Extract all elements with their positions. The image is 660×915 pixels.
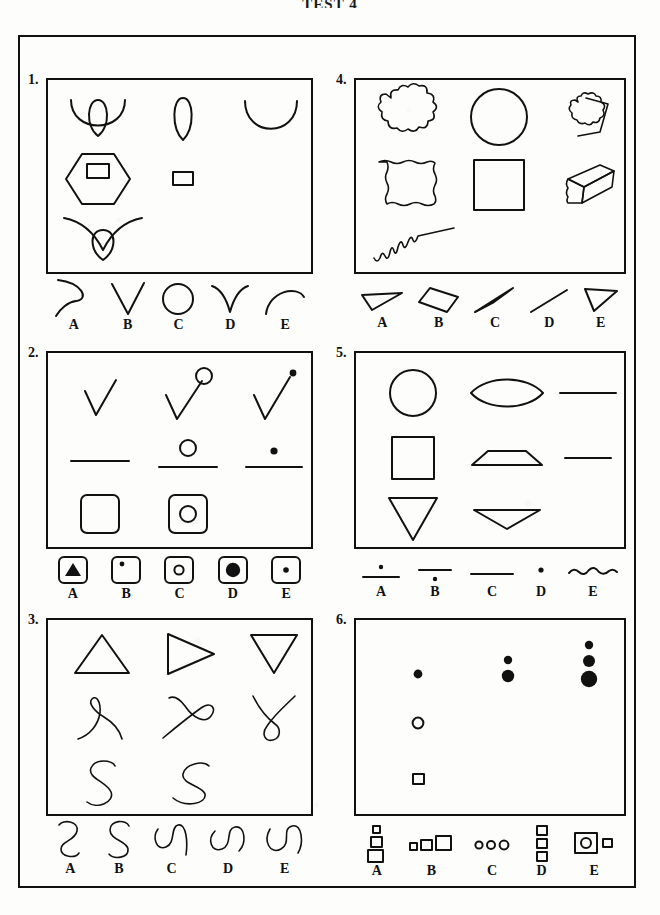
answer-option-c[interactable]: C	[162, 554, 196, 601]
answer-option-a[interactable]: A	[360, 562, 402, 599]
stimulus-cell	[233, 88, 308, 148]
stimulus-cell	[58, 148, 138, 210]
stimulus-cell	[552, 361, 624, 425]
stimulus-cell	[370, 491, 456, 547]
answer-letter: B	[430, 585, 439, 599]
answer-option-d[interactable]: D	[216, 554, 250, 601]
stimulus-cell	[364, 220, 464, 270]
panel-1-stimulus-box	[46, 78, 313, 274]
answer-option-d[interactable]: D	[529, 823, 555, 878]
answer-option-a[interactable]: A	[53, 817, 87, 876]
answer-option-e[interactable]: E	[566, 562, 620, 599]
answer-option-e[interactable]: E	[263, 281, 307, 332]
answer-art-square-with-large-filled-circle	[216, 554, 250, 586]
panel-4-answer-row[interactable]: A B C D E	[354, 280, 626, 330]
answer-option-b[interactable]: B	[102, 817, 136, 876]
stimulus-cell	[548, 154, 624, 216]
answer-art-slanted-rectangle	[416, 285, 462, 315]
answer-letter: B	[114, 862, 123, 876]
panel-1: 1.	[28, 72, 313, 337]
panel-6-answer-row[interactable]: A B C	[354, 824, 626, 878]
answer-letter: B	[427, 864, 436, 878]
panel-5-answer-row[interactable]: A B C D E	[354, 555, 626, 599]
answer-art-thin-flat-triangle	[359, 289, 405, 315]
stimulus-cell	[364, 154, 450, 216]
answer-option-c[interactable]: C	[468, 562, 516, 599]
stimulus-cell-empty	[554, 754, 624, 804]
answer-letter: C	[166, 862, 176, 876]
answer-art-line-with-dot-above	[360, 562, 402, 584]
answer-option-b[interactable]: B	[407, 823, 455, 878]
stimulus-cell-empty	[552, 491, 624, 547]
answer-option-a[interactable]: A	[56, 554, 90, 601]
answer-option-d[interactable]: D	[528, 562, 554, 599]
answer-art-thin-sliver-triangle	[472, 285, 518, 315]
answer-option-e[interactable]: E	[264, 817, 306, 876]
answer-option-e[interactable]: E	[570, 823, 618, 878]
stimulus-cell	[60, 686, 144, 750]
answer-letter: A	[65, 862, 75, 876]
stimulus-cell	[464, 491, 550, 547]
answer-art-v-shape	[108, 281, 148, 317]
answer-option-d[interactable]: D	[209, 281, 251, 332]
answer-option-a[interactable]: A	[362, 823, 392, 878]
stimulus-cell-empty	[466, 754, 550, 804]
answer-letter: C	[490, 316, 500, 330]
panel-4: 4.	[336, 72, 626, 337]
stimulus-cell-empty	[238, 485, 310, 543]
answer-letter: C	[487, 864, 497, 878]
stimulus-cell	[58, 208, 148, 268]
stimulus-cell	[364, 84, 450, 150]
stimulus-cell	[148, 88, 218, 148]
panel-5-number: 5.	[336, 345, 347, 361]
answer-option-e[interactable]: E	[269, 554, 303, 601]
answer-letter: D	[537, 864, 547, 878]
answer-letter: D	[225, 318, 235, 332]
panel-5-stimulus-box	[354, 351, 626, 549]
answer-option-c[interactable]: C	[472, 285, 518, 330]
stimulus-cell	[238, 626, 310, 682]
answer-option-a[interactable]: A	[359, 289, 405, 330]
stimulus-cell	[464, 427, 550, 489]
stimulus-cell	[376, 630, 460, 690]
answer-art-arch-curve	[263, 281, 307, 317]
answer-option-a[interactable]: A	[52, 277, 96, 332]
answer-art-circle	[159, 281, 197, 317]
stimulus-cell	[456, 84, 542, 150]
panel-3-stimulus-box	[46, 618, 313, 816]
answer-letter: D	[544, 316, 554, 330]
answer-option-d[interactable]: D	[528, 287, 570, 330]
answer-letter: E	[280, 862, 289, 876]
answer-option-b[interactable]: B	[414, 562, 456, 599]
answer-letter: B	[121, 587, 130, 601]
answer-letter: A	[372, 864, 382, 878]
panel-2-answer-row[interactable]: A B C D E	[46, 557, 313, 601]
answer-letter: E	[590, 864, 599, 878]
stimulus-cell-empty	[548, 220, 624, 270]
answer-option-c[interactable]: C	[471, 823, 513, 878]
answer-option-d[interactable]: D	[207, 817, 249, 876]
answer-option-b[interactable]: B	[416, 285, 462, 330]
panel-1-answer-row[interactable]: A B C D E	[46, 280, 313, 332]
panel-5: 5.	[336, 345, 626, 603]
answer-letter: A	[68, 587, 78, 601]
stimulus-cell	[464, 361, 550, 425]
answer-art-s-curve-rotated-tail	[150, 817, 192, 861]
answer-letter: B	[434, 316, 443, 330]
answer-letter: E	[588, 585, 597, 599]
stimulus-cell	[238, 431, 310, 483]
answer-art-three-squares-vertical-increasing	[362, 823, 392, 863]
stimulus-cell	[60, 754, 144, 814]
answer-option-b[interactable]: B	[109, 554, 143, 601]
panel-3-answer-row[interactable]: A B C D E	[46, 824, 313, 876]
answer-option-b[interactable]: B	[108, 281, 148, 332]
answer-letter: C	[173, 318, 183, 332]
answer-option-e[interactable]: E	[581, 285, 621, 330]
stimulus-cell	[148, 626, 232, 682]
answer-option-c[interactable]: C	[159, 281, 197, 332]
answer-art-line-with-dot-below	[414, 562, 456, 584]
answer-letter: D	[536, 585, 546, 599]
stimulus-cell	[148, 359, 228, 433]
answer-option-c[interactable]: C	[150, 817, 192, 876]
answer-art-wavy-line	[566, 562, 620, 584]
